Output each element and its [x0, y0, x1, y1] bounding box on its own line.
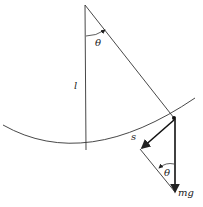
pendulum-diagram: θ l s θ mg	[0, 0, 203, 207]
theta-top-label: θ	[95, 37, 101, 48]
pendulum-string	[85, 5, 174, 118]
tangential-component-vector	[142, 120, 174, 148]
weight-label: mg	[178, 187, 194, 198]
swing-arc	[3, 98, 195, 143]
top-angle-arc	[86, 30, 105, 36]
length-label: l	[74, 80, 77, 91]
theta-bottom-label: θ	[164, 167, 170, 178]
arc-length-label: s	[131, 131, 136, 142]
vertical-line	[85, 5, 86, 150]
